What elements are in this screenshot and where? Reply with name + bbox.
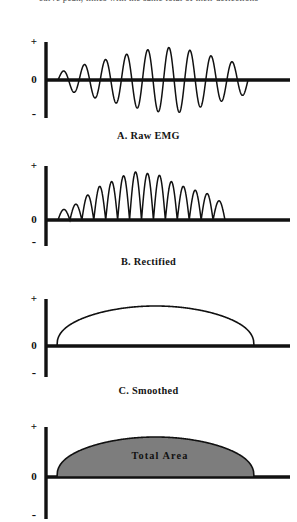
axis-label-zero: 0 xyxy=(26,340,42,350)
figure-page: curve peak, times with the same total of… xyxy=(0,0,297,522)
total-area-svg xyxy=(0,409,297,522)
panel-smoothed: + 0 - C. Smoothed xyxy=(0,281,297,409)
axis-label-zero: 0 xyxy=(26,74,42,84)
rectified-trace xyxy=(58,172,225,220)
axis-label-minus: - xyxy=(26,510,42,520)
panel-raw-emg: + 0 - A. Raw EMG xyxy=(0,30,297,148)
panel-caption-a: A. Raw EMG xyxy=(0,130,297,141)
axis-label-plus: + xyxy=(26,160,42,170)
raw-emg-svg xyxy=(0,30,297,130)
axis-label-zero: 0 xyxy=(26,214,42,224)
smoothed-svg xyxy=(0,281,297,385)
axis-label-zero: 0 xyxy=(26,471,42,481)
plot-raw-emg xyxy=(0,30,297,130)
panel-rectified: + 0 - B. Rectified xyxy=(0,148,297,281)
axes-rectified xyxy=(46,166,290,246)
running-text-clipped: curve peak, times with the same total of… xyxy=(0,0,297,7)
rectified-svg xyxy=(0,148,297,256)
axis-label-plus: + xyxy=(26,36,42,46)
axis-label-minus: - xyxy=(26,237,42,247)
panel-total-area: + 0 - Total Area xyxy=(0,409,297,522)
plot-smoothed xyxy=(0,281,297,385)
plot-total-area xyxy=(0,409,297,522)
smoothed-trace xyxy=(57,306,254,346)
total-area-label: Total Area xyxy=(105,450,215,461)
axis-label-minus: - xyxy=(26,368,42,378)
axis-label-plus: + xyxy=(26,421,42,431)
plot-rectified xyxy=(0,148,297,256)
panel-caption-c: C. Smoothed xyxy=(0,385,297,396)
panel-caption-b: B. Rectified xyxy=(0,256,297,267)
axis-label-minus: - xyxy=(26,109,42,119)
axis-label-plus: + xyxy=(26,293,42,303)
